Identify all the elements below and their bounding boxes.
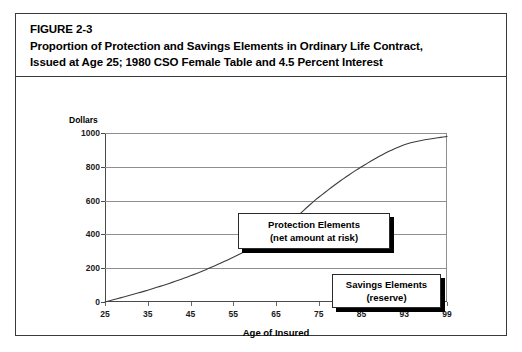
x-tick-label: 55 (229, 309, 238, 319)
chart-region: Dollars 02004006008001000 25354555657585… (16, 77, 506, 335)
figure-title-block: FIGURE 2-3 Proportion of Protection and … (16, 14, 506, 77)
y-axis-title: Dollars (69, 115, 98, 125)
x-axis-title: Age of Insured (105, 327, 447, 338)
x-tick-mark (319, 302, 320, 306)
x-tick-label: 93 (400, 309, 409, 319)
x-tick-mark (276, 302, 277, 306)
x-tick-mark (148, 302, 149, 306)
x-tick-mark (191, 302, 192, 306)
callout-protection-elements: Protection Elements (net amount at risk) (238, 213, 390, 249)
x-tick-label: 65 (271, 309, 280, 319)
callout-savings-line-1: Savings Elements (346, 278, 427, 291)
y-tick-label: 800 (86, 162, 100, 172)
callout-savings-line-2: (reserve) (366, 291, 406, 304)
x-tick-mark (233, 302, 234, 306)
figure-number: FIGURE 2-3 (30, 21, 506, 38)
y-tick-label: 200 (86, 263, 100, 273)
figure-title-line-1: Proportion of Protection and Savings Ele… (30, 38, 506, 55)
x-tick-label: 35 (143, 309, 152, 319)
x-tick-label: 45 (186, 309, 195, 319)
x-tick-mark (105, 302, 106, 306)
y-tick-label: 1000 (81, 128, 100, 138)
y-tick-label: 0 (95, 297, 100, 307)
y-tick-label: 400 (86, 229, 100, 239)
callout-protection-line-2: (net amount at risk) (270, 231, 358, 244)
x-tick-label: 99 (442, 309, 451, 319)
x-tick-label: 75 (314, 309, 323, 319)
figure-frame: FIGURE 2-3 Proportion of Protection and … (15, 13, 507, 336)
plot-area: 02004006008001000 253545556575859399 Pro… (105, 133, 447, 302)
callout-protection-line-1: Protection Elements (268, 218, 360, 231)
x-tick-label: 85 (357, 309, 366, 319)
figure-title-line-2: Issued at Age 25; 1980 CSO Female Table … (30, 54, 506, 71)
x-tick-label: 25 (100, 309, 109, 319)
y-tick-label: 600 (86, 196, 100, 206)
x-tick-mark (447, 302, 448, 306)
callout-savings-elements: Savings Elements (reserve) (332, 274, 441, 308)
